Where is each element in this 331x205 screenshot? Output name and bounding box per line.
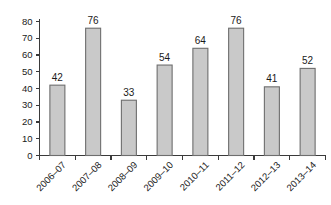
bar xyxy=(157,65,172,155)
x-tick-label: 2008–09 xyxy=(105,159,139,193)
chart-plot-area: 01020304050607080 4276335464764152 2006–… xyxy=(0,0,331,205)
bar-value-label: 41 xyxy=(266,73,278,84)
x-tick-label: 2010–11 xyxy=(177,159,210,192)
y-tick-label: 40 xyxy=(22,83,33,94)
bar-value-label: 64 xyxy=(195,35,207,46)
bar xyxy=(121,100,136,155)
bar xyxy=(193,48,208,155)
x-tick-label: 2011–12 xyxy=(213,159,246,192)
y-tick-label: 50 xyxy=(22,66,33,77)
bar xyxy=(300,68,315,155)
x-tick-label: 2006–07 xyxy=(34,159,68,193)
x-tick-label: 2007–08 xyxy=(70,159,104,193)
bar-chart: 01020304050607080 4276335464764152 2006–… xyxy=(0,0,331,205)
y-tick-label: 30 xyxy=(22,99,33,110)
bar-value-label: 52 xyxy=(302,55,314,66)
x-tick-labels: 2006–072007–082008–092009–102010–112011–… xyxy=(34,159,318,193)
bar-series xyxy=(50,28,315,155)
bar xyxy=(264,87,279,156)
bar-value-label: 76 xyxy=(231,15,243,26)
bar-value-label: 33 xyxy=(123,87,135,98)
bar-value-label: 76 xyxy=(88,15,100,26)
bar xyxy=(229,28,244,155)
bar xyxy=(50,85,65,155)
y-tick-label: 20 xyxy=(22,116,33,127)
bar xyxy=(86,28,101,155)
y-tick-label: 0 xyxy=(27,150,32,161)
y-tick-label: 10 xyxy=(22,133,33,144)
x-tick-label: 2012–13 xyxy=(248,159,282,193)
x-axis xyxy=(40,156,326,160)
y-tick-label: 60 xyxy=(22,49,33,60)
bar-value-label: 54 xyxy=(159,52,171,63)
x-tick-label: 2009–10 xyxy=(141,159,175,193)
bar-value-label: 42 xyxy=(52,72,64,83)
y-tick-label: 70 xyxy=(22,32,33,43)
x-tick-label: 2013–14 xyxy=(284,159,318,193)
y-axis: 01020304050607080 xyxy=(22,16,40,161)
y-tick-label: 80 xyxy=(22,16,33,27)
